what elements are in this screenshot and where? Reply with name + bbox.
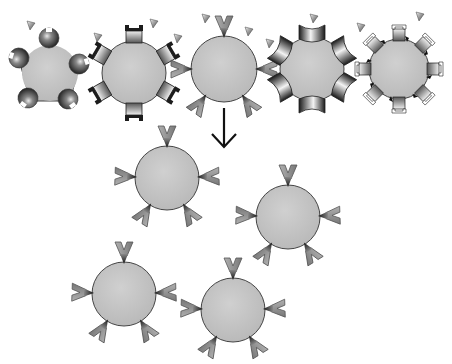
particle-v-notch xyxy=(171,16,277,118)
ligand-icon xyxy=(174,34,182,43)
particle-curved-concave xyxy=(267,25,356,113)
ligand-icon xyxy=(310,14,318,23)
selected-particle-copy-4 xyxy=(181,258,286,359)
ligand-icon xyxy=(357,23,365,32)
ligand-icon xyxy=(202,14,210,23)
ligand-icon xyxy=(150,19,158,28)
ligand-icon xyxy=(266,39,274,48)
ligand-icon xyxy=(94,33,102,42)
selected-particle-copy-2 xyxy=(236,165,341,266)
down-arrow-icon xyxy=(212,108,236,147)
particle-hook-block xyxy=(355,25,443,113)
particle-spherical-cup xyxy=(6,28,91,113)
selected-particle-copy-3 xyxy=(72,242,177,343)
diagram-canvas xyxy=(0,0,452,364)
particle-castellated-block xyxy=(88,25,181,121)
ligand-icon xyxy=(27,21,35,30)
selected-particle-copy-1 xyxy=(115,126,220,227)
ligand-icon xyxy=(245,27,253,36)
ligand-icon xyxy=(416,12,424,21)
